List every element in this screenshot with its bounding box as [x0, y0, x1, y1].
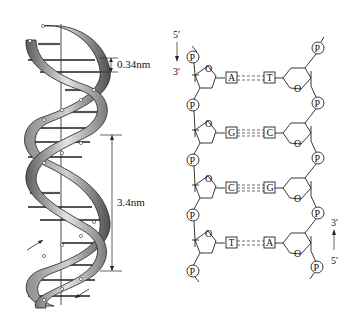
svg-text:O: O	[205, 118, 212, 129]
svg-text:O: O	[294, 83, 301, 94]
svg-text:P: P	[315, 208, 321, 219]
base-pairing-diagram: 5′ 3′ 3′ 5′ P O A	[173, 29, 338, 282]
svg-text:O: O	[205, 63, 212, 74]
left-phosphate: P	[187, 99, 199, 111]
svg-text:A: A	[266, 237, 274, 248]
svg-text:O: O	[294, 138, 301, 149]
svg-text:P: P	[190, 155, 196, 166]
left-phosphate: P	[187, 209, 199, 221]
svg-text:P: P	[314, 262, 320, 273]
svg-text:P: P	[190, 210, 196, 221]
right-phosphate-top: P	[312, 37, 324, 54]
svg-text:O: O	[294, 248, 301, 259]
left-base: T	[226, 237, 237, 248]
svg-text:C: C	[228, 182, 235, 193]
right-base: T	[264, 72, 275, 83]
right-base: G	[264, 182, 275, 193]
svg-text:P: P	[315, 98, 321, 109]
right-phosphate-bottom: P	[310, 261, 323, 279]
nucleotide-pair-row: P O A T O P	[187, 37, 324, 101]
svg-text:O: O	[294, 193, 301, 204]
svg-text:P: P	[190, 52, 196, 63]
nucleotide-pair-row: P O C G O P	[187, 152, 324, 211]
arrow-up-icon	[332, 229, 336, 235]
nucleotide-pair-row: P O G C O P	[187, 97, 324, 156]
double-helix: 0.34nm 3.4nm	[25, 24, 151, 308]
arrow-down-icon	[175, 56, 179, 62]
svg-text:T: T	[267, 72, 273, 83]
left-strand-5prime: 5′	[173, 29, 180, 40]
right-phosphate-top: P	[312, 207, 324, 219]
left-phosphate: P	[187, 154, 199, 166]
left-base: C	[226, 182, 237, 193]
svg-text:P: P	[315, 43, 321, 54]
svg-text:A: A	[228, 72, 236, 83]
left-strand-3prime: 3′	[173, 66, 180, 77]
right-base: C	[264, 127, 275, 138]
svg-text:T: T	[229, 237, 235, 248]
svg-text:P: P	[190, 266, 196, 277]
right-phosphate-top: P	[312, 152, 324, 164]
right-strand-3prime: 3′	[331, 217, 338, 228]
svg-text:P: P	[190, 100, 196, 111]
left-base: A	[226, 72, 237, 83]
right-strand-5prime: 5′	[331, 255, 338, 266]
left-base: G	[226, 127, 237, 138]
right-base: A	[264, 237, 275, 248]
strand-arrow-up	[27, 240, 43, 250]
left-phosphate: P	[187, 46, 199, 63]
nucleotide-pair-row: P O T A O P	[187, 207, 324, 282]
svg-text:C: C	[267, 127, 274, 138]
left-phosphate-bottom: P	[187, 265, 199, 282]
svg-text:O: O	[205, 173, 212, 184]
label-0-34nm: 0.34nm	[117, 58, 151, 70]
right-phosphate-top: P	[312, 97, 324, 109]
svg-text:G: G	[267, 182, 274, 193]
svg-text:G: G	[228, 127, 235, 138]
svg-text:O: O	[205, 228, 212, 239]
svg-text:P: P	[315, 153, 321, 164]
label-3-4nm: 3.4nm	[117, 196, 145, 208]
